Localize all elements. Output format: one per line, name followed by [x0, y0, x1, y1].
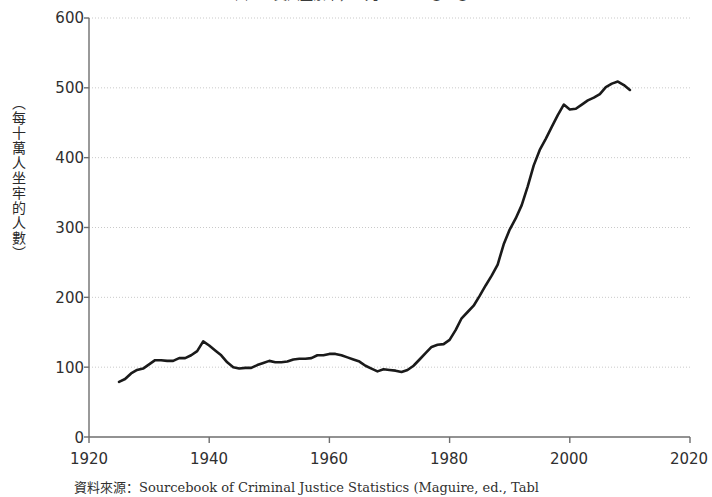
source-note: 資料來源：Sourcebook of Criminal Justice Stat… — [74, 480, 694, 497]
data-series-line — [119, 82, 630, 382]
axis-ticks-group — [84, 18, 690, 443]
gridlines-group — [89, 18, 690, 367]
